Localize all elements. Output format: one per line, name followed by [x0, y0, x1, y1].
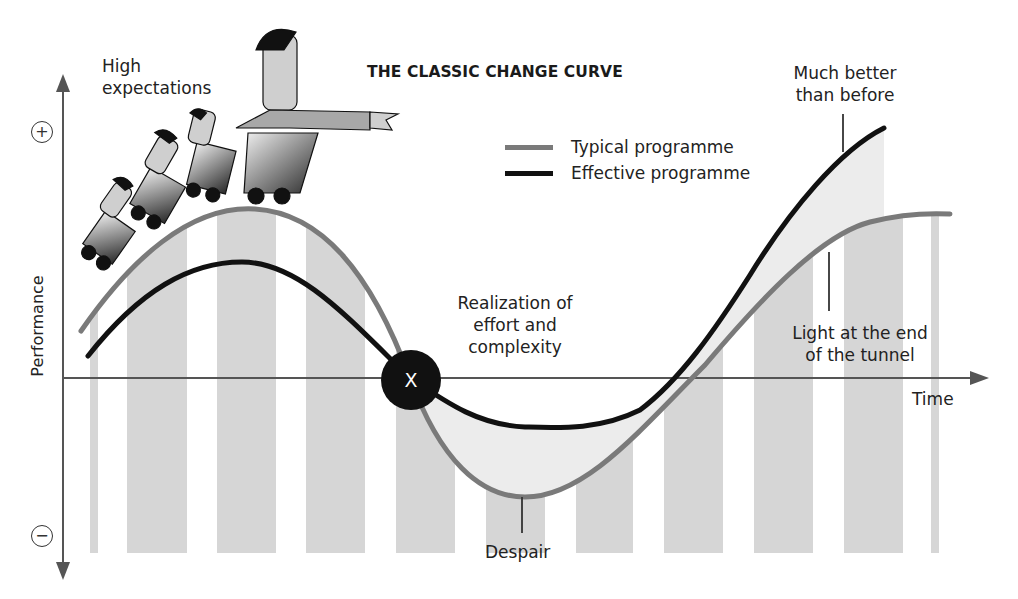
diagram-title: THE CLASSIC CHANGE CURVE	[367, 63, 623, 81]
x-axis-label: Time	[912, 388, 954, 410]
light-at-end-line-2: of the tunnel	[770, 344, 950, 366]
legend-item-effective: Effective programme	[505, 160, 750, 186]
light-at-end-line-1: Light at the end	[770, 322, 950, 344]
light-at-end-label: Light at the end of the tunnel	[770, 322, 950, 366]
y-axis-label: Performance	[28, 275, 47, 376]
legend-item-typical: Typical programme	[505, 134, 750, 160]
legend-swatch-effective	[505, 171, 553, 176]
despair-label: Despair	[485, 541, 550, 563]
y-axis-down-arrow-icon	[56, 562, 70, 580]
much-better-line-2: than before	[770, 84, 920, 106]
minus-marker-icon: −	[31, 525, 53, 547]
realization-line-1: Realization of	[440, 292, 590, 314]
high-expectations-line-2: expectations	[102, 77, 211, 99]
legend-label-effective: Effective programme	[571, 163, 750, 183]
high-expectations-line-1: High	[102, 55, 211, 77]
realization-line-3: complexity	[440, 336, 590, 358]
legend: Typical programme Effective programme	[505, 134, 750, 186]
x-axis-arrow-icon	[970, 371, 989, 385]
plus-marker-icon: +	[31, 121, 53, 143]
much-better-line-1: Much better	[770, 62, 920, 84]
realization-line-2: effort and	[440, 314, 590, 336]
lead-rider	[236, 29, 398, 204]
crossover-marker: X	[381, 350, 441, 410]
much-better-label: Much better than before	[770, 62, 920, 106]
high-expectations-label: High expectations	[102, 55, 211, 99]
legend-label-typical: Typical programme	[571, 137, 734, 157]
legend-swatch-typical	[505, 145, 553, 150]
realization-label: Realization of effort and complexity	[440, 292, 590, 358]
y-axis-up-arrow-icon	[56, 74, 70, 92]
